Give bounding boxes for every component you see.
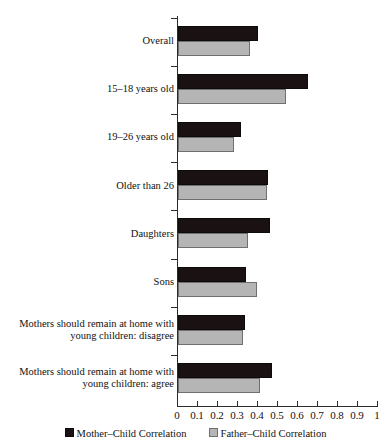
category-label: Older than 26: [2, 180, 174, 192]
category-label-line: Overall: [2, 35, 174, 47]
category-label-line: 15–18 years old: [2, 83, 174, 95]
category-label: 15–18 years old: [2, 83, 174, 95]
bar-group: Overall: [0, 18, 391, 66]
correlation-bar-chart: 00.10.20.30.40.50.60.70.80.91 Overall15–…: [0, 0, 391, 447]
x-axis-tick-label: 1: [364, 409, 390, 421]
category-label-line: Daughters: [2, 228, 174, 240]
category-label: Sons: [2, 276, 174, 288]
bar-group: Older than 26: [0, 162, 391, 210]
bar-group: Mothers should remain at home withyoung …: [0, 307, 391, 355]
bar-mother-child: [178, 170, 268, 185]
category-label: 19–26 years old: [2, 131, 174, 143]
category-label: Mothers should remain at home withyoung …: [2, 318, 174, 341]
bar-father-child: [178, 233, 248, 248]
bar-mother-child: [178, 74, 308, 89]
category-label-line: Sons: [2, 276, 174, 288]
bar-group: 15–18 years old: [0, 66, 391, 114]
legend-item: Father–Child Correlation: [209, 428, 327, 439]
bar-mother-child: [178, 267, 246, 282]
bar-father-child: [178, 89, 286, 104]
category-label-line: Mothers should remain at home with: [2, 366, 174, 378]
bar-group: 19–26 years old: [0, 114, 391, 162]
bar-father-child: [178, 41, 250, 56]
legend-item: Mother–Child Correlation: [65, 428, 187, 439]
bar-mother-child: [178, 363, 272, 378]
category-label: Daughters: [2, 228, 174, 240]
bar-father-child: [178, 330, 243, 345]
category-label-line: Mothers should remain at home with: [2, 318, 174, 330]
legend-swatch-father-child: [209, 428, 218, 437]
legend-label: Mother–Child Correlation: [77, 428, 187, 439]
bar-father-child: [178, 282, 257, 297]
bar-mother-child: [178, 218, 270, 233]
bar-mother-child: [178, 26, 258, 41]
category-label: Overall: [2, 35, 174, 47]
legend-label: Father–Child Correlation: [221, 428, 327, 439]
bar-father-child: [178, 137, 234, 152]
bar-mother-child: [178, 315, 245, 330]
bar-mother-child: [178, 122, 241, 137]
category-label-line: young children: disagree: [2, 330, 174, 342]
bar-group: Sons: [0, 259, 391, 307]
category-label-line: young children: agree: [2, 378, 174, 390]
bar-father-child: [178, 185, 267, 200]
bar-group: Mothers should remain at home withyoung …: [0, 355, 391, 403]
bar-group: Daughters: [0, 210, 391, 258]
category-label-line: Older than 26: [2, 180, 174, 192]
category-label: Mothers should remain at home withyoung …: [2, 366, 174, 389]
category-label-line: 19–26 years old: [2, 131, 174, 143]
legend-swatch-mother-child: [65, 428, 74, 437]
bar-father-child: [178, 378, 260, 393]
chart-legend: Mother–Child CorrelationFather–Child Cor…: [0, 428, 391, 439]
